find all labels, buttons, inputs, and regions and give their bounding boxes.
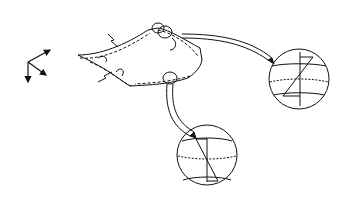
diagram-drawing (0, 0, 363, 208)
plate-icon (78, 23, 202, 86)
strain-x-circle-icon (177, 125, 237, 185)
connector-arrows-icon (167, 34, 274, 138)
axes-icon (28, 50, 50, 82)
strain-y-circle-icon (269, 49, 329, 109)
diagram-canvas (0, 0, 363, 208)
